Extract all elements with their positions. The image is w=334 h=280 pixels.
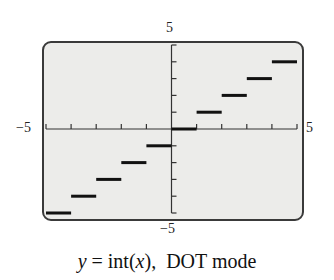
caption-eq: = int( <box>87 250 136 272</box>
x-max-label: 5 <box>306 120 313 136</box>
plot-area <box>0 0 334 280</box>
y-min-label: −5 <box>160 221 175 237</box>
caption-var: y <box>78 250 87 272</box>
y-max-label: 5 <box>166 20 173 36</box>
caption-mode: DOT mode <box>166 250 256 272</box>
chart-caption: y = int(x), DOT mode <box>0 250 334 273</box>
x-min-label: −5 <box>16 120 31 136</box>
caption-close: ), <box>144 250 156 272</box>
